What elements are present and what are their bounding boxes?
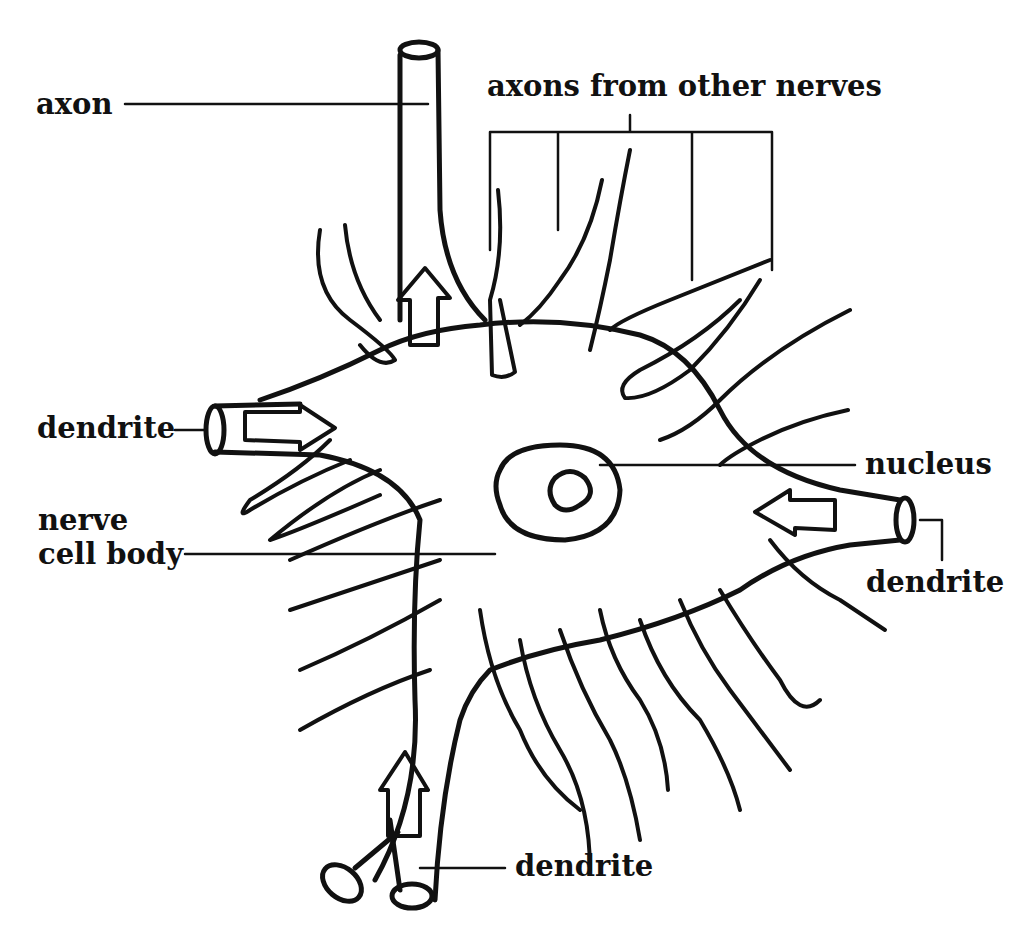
label-dendrite-right: dendrite bbox=[866, 568, 1004, 597]
label-dendrite-bottom: dendrite bbox=[515, 852, 653, 881]
neuron-diagram bbox=[0, 0, 1015, 939]
label-dendrite-left: dendrite bbox=[37, 414, 175, 443]
axon-shape bbox=[398, 42, 485, 345]
nucleus-shape bbox=[496, 445, 620, 540]
dendrite-bottom-shape bbox=[316, 752, 432, 909]
label-nucleus: nucleus bbox=[865, 450, 992, 479]
label-axons-from-other-nerves: axons from other nerves bbox=[487, 72, 882, 101]
cell-body-outline bbox=[215, 322, 900, 900]
label-cell-body: cell body bbox=[38, 540, 183, 569]
dendrite-left-shape bbox=[206, 404, 335, 454]
label-axon: axon bbox=[36, 90, 113, 119]
label-nerve: nerve bbox=[38, 506, 128, 535]
